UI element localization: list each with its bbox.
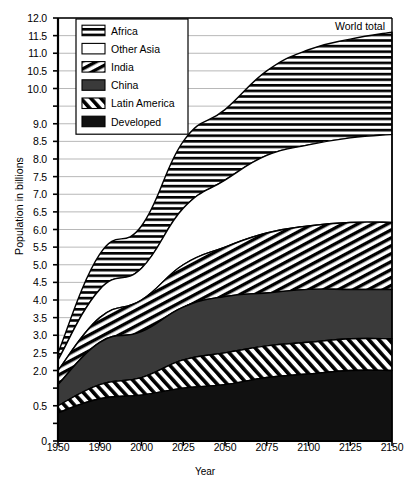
legend-label-africa: Africa [111,25,138,37]
world-total-label: World total [335,20,385,32]
legend-swatch-developed [82,116,105,127]
legend-label-developed: Developed [111,116,161,128]
legend-label-china: China [111,79,139,91]
world-total-annotation: World total [335,20,385,32]
legend-swatch-africa [82,25,105,36]
legend-label-latin-america: Latin America [111,97,175,109]
legend-swatch-india [82,62,105,73]
legend-swatch-china [82,80,105,91]
legend-swatch-latin-america [82,98,105,109]
plot-area: AfricaOther AsiaIndiaChinaLatin AmericaD… [0,0,410,486]
population-projection-chart: Population in billions 12.011.511.010.51… [0,0,410,486]
legend-swatch-other-asia [82,43,105,54]
legend: AfricaOther AsiaIndiaChinaLatin AmericaD… [76,19,188,134]
legend-label-india: India [111,61,134,73]
legend-label-other-asia: Other Asia [111,43,160,55]
